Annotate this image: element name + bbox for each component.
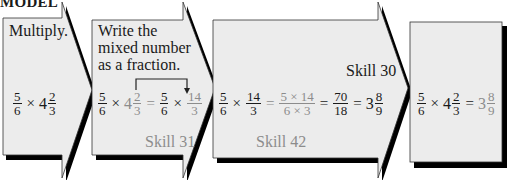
step1-label: Multiply. — [9, 22, 68, 39]
step2-expression: 56 × 423 = 56 × 143 — [97, 90, 203, 117]
step3-skill-top: Skill 30 — [346, 62, 396, 79]
fraction: 23 — [48, 90, 57, 117]
step3-expression: 56 × 143 = 5 × 146 × 3 = 7018 = 389 — [218, 90, 384, 117]
step2-skill: Skill 31 — [145, 133, 195, 150]
step3-skill: Skill 42 — [256, 133, 306, 150]
model-title: MODEL — [0, 0, 58, 11]
step4-expression: 56 × 423 = 389 — [416, 90, 496, 117]
fraction: 56 — [13, 90, 22, 117]
step1-expression: 56 × 423 — [12, 90, 57, 117]
step2-label: Write the mixed number as a fraction. — [98, 22, 191, 73]
